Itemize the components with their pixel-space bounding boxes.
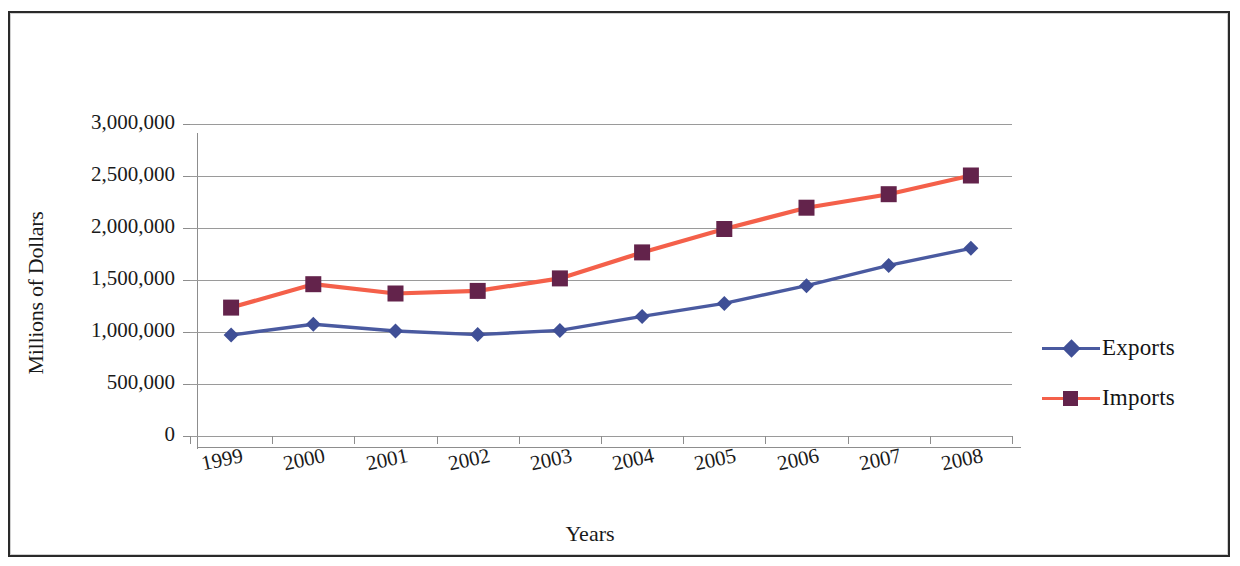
data-point-exports-2004	[635, 309, 650, 324]
data-point-imports-1999	[223, 300, 239, 316]
data-point-exports-2007	[881, 258, 896, 273]
legend-key-exports	[1042, 339, 1100, 357]
data-point-imports-2006	[799, 200, 815, 216]
square-marker-icon	[1063, 391, 1078, 406]
data-point-exports-1999	[224, 328, 239, 343]
legend-key-imports	[1042, 389, 1100, 407]
data-point-imports-2001	[388, 286, 404, 302]
data-point-exports-2000	[306, 317, 321, 332]
data-point-imports-2007	[881, 186, 897, 202]
series-plot	[10, 13, 1232, 559]
chart-page: Millions of Dollars 0500,0001,000,0001,5…	[0, 0, 1240, 566]
legend-label-exports: Exports	[1100, 335, 1175, 361]
data-point-exports-2003	[552, 323, 567, 338]
legend-item-imports: Imports	[1042, 373, 1232, 423]
data-point-exports-2006	[799, 278, 814, 293]
series-line-exports	[231, 248, 971, 335]
series-line-imports	[231, 176, 971, 308]
x-axis-title: Years	[10, 521, 1170, 547]
data-point-imports-2000	[305, 276, 321, 292]
figure-border: Millions of Dollars 0500,0001,000,0001,5…	[8, 11, 1230, 557]
diamond-marker-icon	[1062, 339, 1080, 357]
data-point-exports-2008	[963, 241, 978, 256]
chart-legend: Exports Imports	[1042, 323, 1232, 423]
data-point-imports-2002	[470, 283, 486, 299]
legend-item-exports: Exports	[1042, 323, 1232, 373]
data-point-exports-2001	[388, 324, 403, 339]
data-point-exports-2002	[470, 327, 485, 342]
data-point-imports-2005	[716, 221, 732, 237]
data-point-imports-2008	[963, 168, 979, 184]
data-point-exports-2005	[717, 296, 732, 311]
data-point-imports-2003	[552, 270, 568, 286]
legend-label-imports: Imports	[1100, 385, 1175, 411]
data-point-imports-2004	[634, 244, 650, 260]
